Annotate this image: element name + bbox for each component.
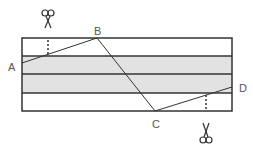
- diagram-canvas: A B C D: [0, 0, 253, 151]
- point-label-b: B: [94, 25, 101, 37]
- point-label-d: D: [239, 82, 247, 94]
- point-label-c: C: [152, 118, 160, 130]
- point-label-a: A: [8, 61, 16, 73]
- scissors-icon-bottom: [200, 123, 212, 143]
- scissors-icon-top: [42, 10, 54, 28]
